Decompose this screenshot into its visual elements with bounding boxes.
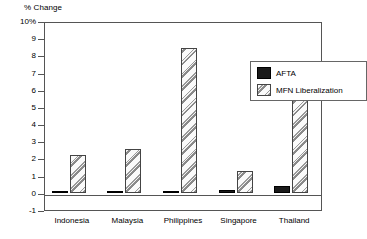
legend-swatch-afta [257,67,271,79]
y-axis-label-6: 6 [2,87,36,95]
y-axis-label-1: 1 [2,173,36,181]
bar-indonesia-afta [52,191,68,193]
legend-item-afta: AFTA [257,67,296,79]
y-axis-label-8: 8 [2,52,36,60]
zero-baseline [45,195,321,196]
y-axis-label-2: 2 [2,155,36,163]
bar-malaysia-afta [107,191,123,193]
x-axis-label-indonesia: Indonesia [44,216,100,225]
legend-label-mfn-liberalization: MFN Liberalization [276,86,343,95]
x-axis-label-thailand: Thailand [266,216,322,225]
legend-swatch-mfn-liberalization [257,84,271,96]
bar-thailand-mfn-liberalization [292,97,308,193]
x-axis-label-philippines: Philippines [155,216,211,225]
legend-item-mfn-liberalization: MFN Liberalization [257,84,343,96]
y-axis-label-9: 9 [2,35,36,43]
x-axis-label-singapore: Singapore [211,216,267,225]
y-axis-label-0: 0 [2,190,36,198]
x-axis-label-malaysia: Malaysia [100,216,156,225]
bar-singapore-afta [219,190,235,193]
chart-legend: AFTA MFN Liberalization [250,61,367,101]
bar-thailand-afta [274,186,290,193]
y-axis-label-neg1: -1 [2,207,36,215]
y-axis-label-7: 7 [2,70,36,78]
y-axis-label-3: 3 [2,138,36,146]
bar-philippines-afta [163,191,179,193]
y-axis-label-10: 10% [2,18,36,26]
y-axis-label-4: 4 [2,121,36,129]
bar-malaysia-mfn-liberalization [125,149,141,193]
bar-indonesia-mfn-liberalization [70,155,86,193]
plot-area: AFTA MFN Liberalization [44,22,322,211]
y-axis-label-5: 5 [2,104,36,112]
bar-singapore-mfn-liberalization [237,171,253,193]
bar-philippines-mfn-liberalization [181,48,197,193]
y-axis-title: % Change [24,3,62,12]
legend-label-afta: AFTA [276,69,296,78]
y-axis-tick-neg1 [38,211,44,212]
